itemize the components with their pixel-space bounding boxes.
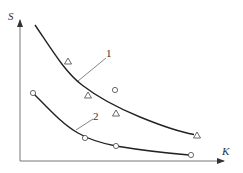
curve-2-label: 2	[93, 110, 99, 122]
circle-marker	[30, 90, 35, 95]
curve-1-label: 1	[106, 47, 112, 59]
series-2-markers	[30, 90, 193, 157]
chart: S K 1 2	[0, 0, 243, 173]
circle-marker	[82, 135, 87, 140]
triangle-marker	[194, 132, 201, 138]
leader-line-2	[76, 119, 93, 130]
y-axis-label: S	[8, 10, 14, 22]
circle-marker	[188, 152, 193, 157]
leader-line-1	[78, 58, 106, 81]
series-1-markers	[65, 58, 201, 138]
x-axis-label: K	[221, 145, 230, 157]
circle-marker	[113, 143, 118, 148]
triangle-marker	[113, 110, 120, 116]
triangle-marker	[65, 58, 72, 64]
curve-2	[33, 93, 189, 155]
stray-circle-marker	[112, 87, 117, 92]
triangle-marker	[85, 92, 92, 98]
